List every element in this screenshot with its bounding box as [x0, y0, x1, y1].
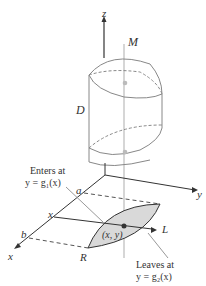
leaves-label-2: y = g₂(x) [136, 271, 172, 283]
diagram: z M D y x a b x (x, y) L R Enters at y =… [0, 0, 206, 286]
leaves-label-1: Leaves at [136, 259, 174, 271]
b-label: b [21, 228, 27, 240]
m-label: M [128, 36, 138, 48]
enters-label-1: Enters at [30, 165, 65, 177]
enters-label-2: y = g₁(x) [25, 177, 61, 189]
x-axis-label: x [8, 250, 13, 262]
a-label: a [76, 184, 82, 196]
diagram-graphics [0, 0, 206, 286]
region-label: R [80, 251, 87, 263]
z-axis-label: z [102, 7, 106, 19]
y-axis-label: y [197, 188, 202, 200]
x-tick-label: x [48, 208, 53, 220]
d-label: D [76, 104, 85, 116]
l-label: L [162, 223, 168, 235]
point-label: (x, y) [102, 229, 123, 241]
